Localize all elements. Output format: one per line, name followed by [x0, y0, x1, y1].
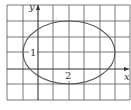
label-semi-major: 2	[65, 70, 71, 81]
grid	[7, 5, 130, 100]
y-axis-label: y	[28, 1, 35, 12]
label-semi-minor: 1	[30, 47, 36, 58]
x-axis-label: x	[124, 71, 130, 82]
ellipse-diagram: 1 2 y x	[0, 0, 131, 110]
